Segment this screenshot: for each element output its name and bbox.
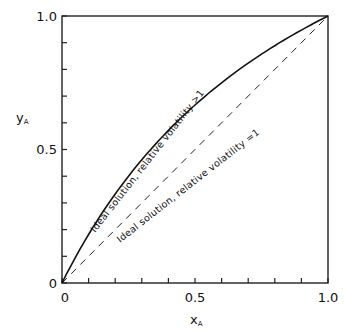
x-tick-0: 0 [61,290,69,305]
x-tick-05: 0.5 [185,290,206,305]
x-tick-1: 1.0 [318,290,339,305]
dashed-curve-label: Ideal solution, relative volatility =1 [114,126,261,244]
diagonal-dashed-line [62,16,328,283]
y-tick-1: 1.0 [36,9,57,24]
x-axis-label: xA [190,312,203,328]
y-tick-0: 0 [49,276,57,291]
y-tick-05: 0.5 [36,142,57,157]
chart: 1.0 0.5 0 0 0.5 1.0 yA xA Ideal solution… [0,0,344,332]
y-axis-label: yA [16,110,29,126]
